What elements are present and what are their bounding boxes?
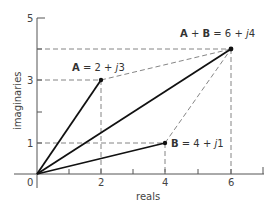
y-axis-title: imaginaries <box>12 72 23 131</box>
x-tick-6: 6 <box>228 177 234 188</box>
y-tick-1: 1 <box>27 138 33 149</box>
x-axis-title: reals <box>136 191 160 202</box>
vector-sum <box>37 49 231 174</box>
complex-plane-diagram: 5 3 1 0 2 4 6 reals imaginaries A = 2 + … <box>0 0 271 209</box>
x-ticks <box>69 167 263 174</box>
y-ticks <box>37 18 45 143</box>
label-b: B = 4 + j1 <box>171 138 224 149</box>
y-tick-5: 5 <box>27 13 33 24</box>
label-a: A = 2 + j3 <box>72 62 125 73</box>
x-tick-2: 2 <box>98 177 104 188</box>
x-tick-0: 0 <box>27 177 33 188</box>
y-tick-3: 3 <box>27 75 33 86</box>
label-sum: A + B = 6 + j4 <box>180 28 255 39</box>
vectors <box>37 49 231 174</box>
x-tick-4: 4 <box>162 177 168 188</box>
